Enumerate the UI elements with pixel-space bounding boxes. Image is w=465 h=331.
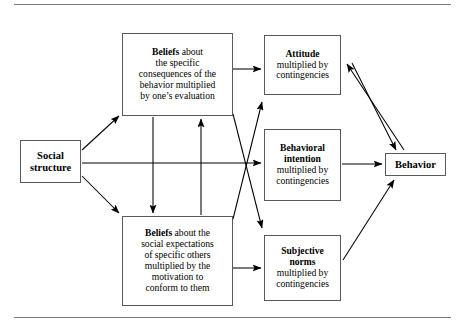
node-beliefs-consequences-line-1-rest: about xyxy=(179,46,203,57)
node-behavior[interactable]: Behavior xyxy=(385,153,446,176)
edge-behavior-to-attitude xyxy=(347,64,404,150)
node-beliefs-normative-line-6: conform to them xyxy=(146,283,210,294)
node-behavioral-intention[interactable]: Behavioral intention multiplied by conti… xyxy=(264,129,341,201)
node-attitude-lead: Attitude xyxy=(285,49,319,60)
node-social-structure[interactable]: Social structure xyxy=(20,140,81,183)
node-behavior-line-1: Behavior xyxy=(395,159,436,171)
node-subjective-norms-line-2: contingencies xyxy=(276,279,329,290)
node-social-structure-line-1: Social xyxy=(37,150,64,162)
node-attitude[interactable]: Attitude multiplied by contingencies xyxy=(264,35,341,95)
edge-beliefs-normative-to-attitude xyxy=(233,102,262,219)
node-beliefs-about-consequences[interactable]: Beliefs about the specific consequences … xyxy=(122,33,233,116)
node-attitude-line-2: contingencies xyxy=(276,70,329,81)
node-subjective-norms[interactable]: Subjective norms multiplied by contingen… xyxy=(264,235,341,301)
edge-social-to-beliefs-consequences xyxy=(82,116,119,150)
edge-attitude-to-behavior xyxy=(352,63,396,150)
node-beliefs-normative-lead: Beliefs xyxy=(145,227,172,238)
node-beliefs-consequences-lead: Beliefs xyxy=(152,46,179,57)
figure-container: Social structure Beliefs about the speci… xyxy=(0,0,465,331)
node-beliefs-about-social-expectations[interactable]: Beliefs about the social expectations of… xyxy=(122,216,233,306)
node-beliefs-consequences-line-5: by one’s evaluation xyxy=(140,91,215,102)
node-social-structure-line-2: structure xyxy=(30,162,71,174)
edge-beliefs-consequences-to-subjective-norms xyxy=(233,114,262,228)
edge-social-to-beliefs-normative xyxy=(82,176,119,213)
node-beliefs-normative-line-1-rest: about the xyxy=(172,227,210,238)
edge-subjective-norms-to-behavior xyxy=(343,180,394,260)
node-behavioral-intention-line-2: contingencies xyxy=(276,176,329,187)
